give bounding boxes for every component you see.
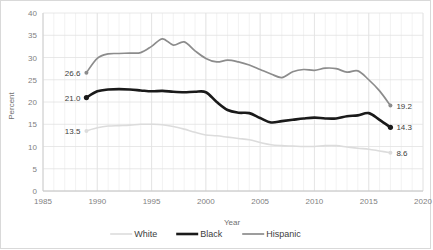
legend-item-hispanic[interactable]: Hispanic: [242, 229, 301, 239]
x-tick-label: 1985: [34, 197, 52, 206]
y-tick-label: 5: [33, 165, 38, 174]
y-axis-tick-labels: 0510152025303540: [28, 9, 37, 196]
y-tick-label: 20: [28, 98, 37, 107]
y-tick-label: 40: [28, 9, 37, 18]
x-axis-title: Year: [224, 218, 241, 227]
x-tick-label: 2015: [360, 197, 378, 206]
x-axis-tick-labels: 19851990199520002005201020152020: [34, 197, 432, 206]
end-label-hispanic: 19.2: [396, 102, 412, 111]
y-tick-label: 0: [33, 187, 38, 196]
x-tick-label: 1990: [88, 197, 106, 206]
end-label-black: 14.3: [396, 123, 412, 132]
end-label-white: 8.6: [396, 149, 408, 158]
chart-legend: WhiteBlackHispanic: [110, 229, 301, 239]
legend-label-white: White: [134, 229, 157, 239]
x-tick-label: 2000: [197, 197, 215, 206]
start-marker-hispanic: [84, 71, 88, 75]
y-tick-label: 35: [28, 31, 37, 40]
start-label-hispanic: 26.6: [65, 69, 81, 78]
legend-label-hispanic: Hispanic: [266, 229, 301, 239]
x-tick-label: 2010: [306, 197, 324, 206]
x-tick-label: 1995: [143, 197, 161, 206]
chart-container: 0510152025303540 19851990199520002005201…: [0, 0, 431, 249]
legend-item-white[interactable]: White: [110, 229, 157, 239]
legend-label-black: Black: [200, 229, 223, 239]
y-tick-label: 25: [28, 76, 37, 85]
y-axis-title: Percent: [7, 91, 16, 119]
start-marker-black: [84, 95, 89, 100]
line-chart: 0510152025303540 19851990199520002005201…: [1, 1, 433, 250]
y-tick-label: 30: [28, 54, 37, 63]
end-marker-white: [388, 151, 392, 155]
end-marker-black: [388, 125, 393, 130]
y-tick-label: 10: [28, 143, 37, 152]
legend-item-black[interactable]: Black: [176, 229, 223, 239]
y-tick-label: 15: [28, 120, 37, 129]
x-tick-label: 2020: [414, 197, 432, 206]
x-tick-label: 2005: [251, 197, 269, 206]
start-label-black: 21.0: [65, 94, 81, 103]
major-gridlines: [43, 13, 423, 191]
start-label-white: 13.5: [65, 127, 81, 136]
start-marker-white: [84, 129, 88, 133]
end-marker-hispanic: [388, 104, 392, 108]
